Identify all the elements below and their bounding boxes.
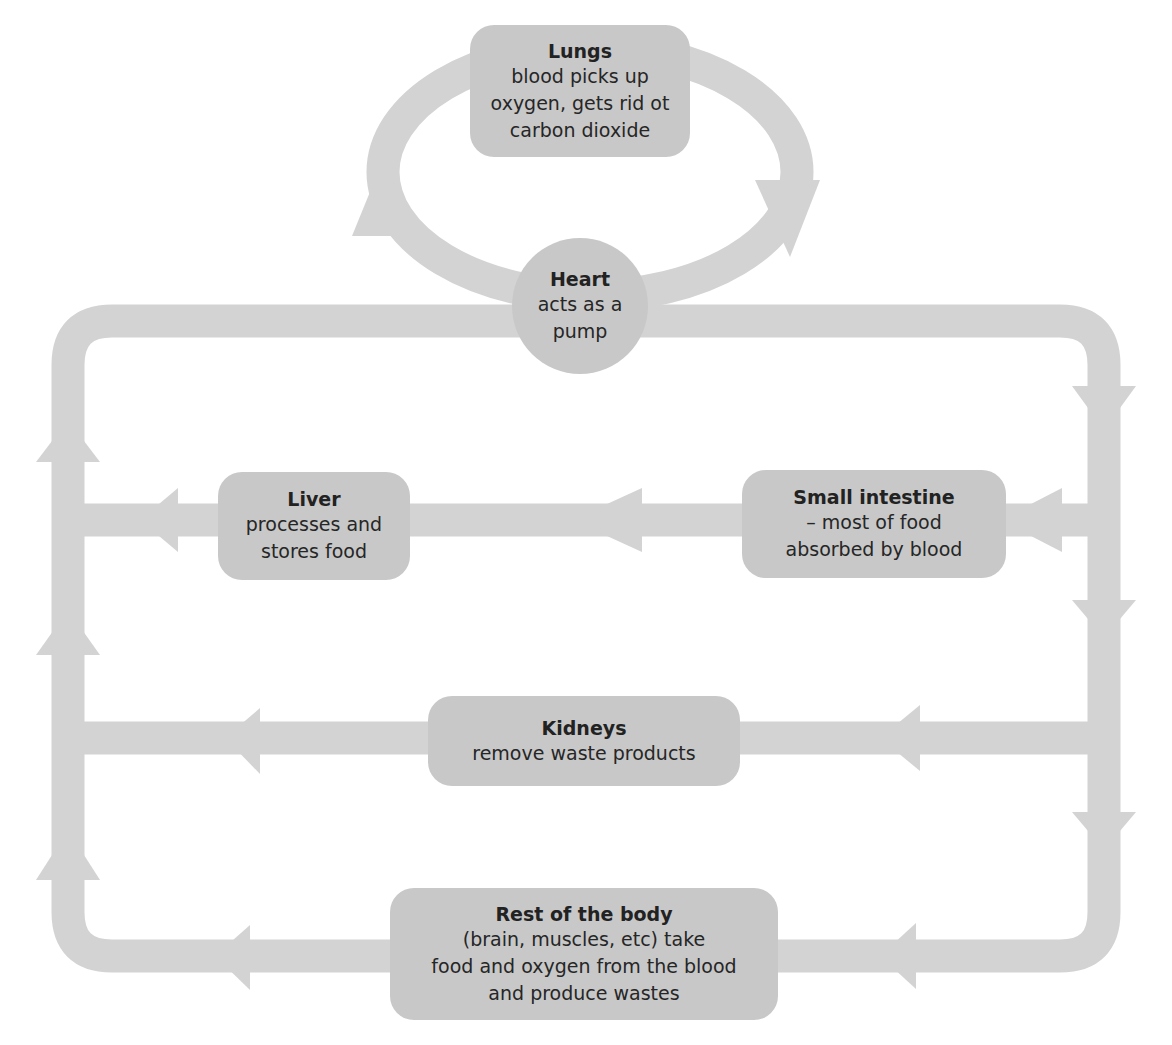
- arrow-up-icon: [36, 420, 100, 462]
- arrow-left-icon: [225, 708, 260, 774]
- small-intestine-title: Small intestine: [793, 485, 954, 509]
- arrow-down-icon: [1072, 812, 1136, 850]
- arrow-left-icon: [880, 923, 916, 989]
- kidneys-node: Kidneys remove waste products: [428, 696, 740, 786]
- liver-title: Liver: [287, 487, 340, 511]
- arrow-left-icon: [572, 488, 642, 552]
- arrow-left-icon: [880, 705, 920, 771]
- rest-of-body-title: Rest of the body: [495, 902, 672, 926]
- rest-of-body-node: Rest of the body (brain, muscles, etc) t…: [390, 888, 778, 1020]
- heart-node: Heart acts as a pump: [512, 238, 648, 374]
- kidneys-title: Kidneys: [542, 716, 627, 740]
- rest-of-body-description: (brain, muscles, etc) take food and oxyg…: [431, 926, 736, 1007]
- lungs-title: Lungs: [548, 39, 612, 63]
- liver-node: Liver processes and stores food: [218, 472, 410, 580]
- small-intestine-description: – most of food absorbed by blood: [786, 509, 963, 563]
- lungs-node: Lungs blood picks up oxygen, gets rid ot…: [470, 25, 690, 157]
- arrow-left-icon: [140, 488, 178, 552]
- systemic-outer-loop: [68, 321, 1104, 956]
- liver-description: processes and stores food: [246, 511, 382, 565]
- small-intestine-node: Small intestine – most of food absorbed …: [742, 470, 1006, 578]
- kidneys-description: remove waste products: [472, 740, 695, 767]
- arrow-down-icon: [1072, 386, 1136, 430]
- heart-title: Heart: [550, 267, 610, 291]
- heart-description: acts as a pump: [538, 291, 623, 345]
- arrow-left-icon: [1000, 488, 1062, 552]
- arrow-up-icon: [36, 830, 100, 880]
- arrow-left-icon: [215, 925, 250, 990]
- arrow-up-icon: [352, 160, 416, 236]
- lungs-description: blood picks up oxygen, gets rid ot carbo…: [491, 63, 670, 144]
- arrow-up-icon: [36, 610, 100, 655]
- arrow-down-icon: [1072, 600, 1136, 638]
